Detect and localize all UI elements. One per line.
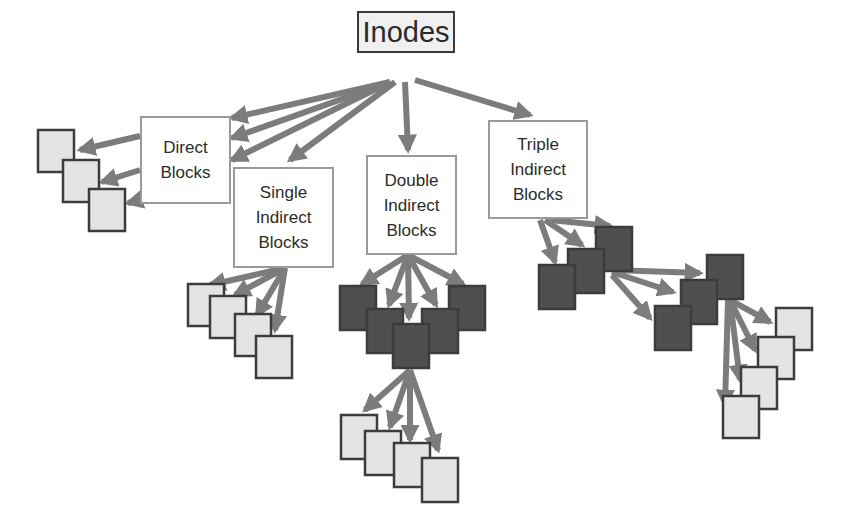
single-line-1: Single (260, 180, 307, 205)
indirect-block (393, 324, 429, 368)
triple-indirect-blocks (539, 227, 743, 350)
single-line-3: Blocks (258, 230, 308, 255)
triple-line-3: Blocks (513, 182, 563, 207)
double-line-1: Double (385, 168, 439, 193)
double-data-blocks (341, 415, 458, 502)
triple-indirect-blocks-box: Triple Indirect Blocks (488, 120, 588, 219)
data-block (89, 189, 125, 231)
triple-line-2: Indirect (510, 157, 566, 182)
triple-line-1: Triple (517, 132, 559, 157)
indirect-block (539, 265, 575, 309)
data-block (422, 458, 458, 502)
double-line-3: Blocks (386, 218, 436, 243)
single-indirect-blocks-box: Single Indirect Blocks (233, 167, 334, 268)
data-block (256, 336, 292, 378)
direct-line-2: Blocks (160, 160, 210, 185)
data-block (723, 396, 759, 438)
inodes-box: Inodes (357, 11, 455, 53)
inode-diagram (0, 0, 848, 529)
single-line-2: Indirect (256, 205, 312, 230)
double-indirect-blocks (340, 286, 485, 368)
single-data-blocks (188, 284, 292, 378)
inodes-label: Inodes (362, 16, 449, 48)
direct-line-1: Direct (163, 135, 207, 160)
double-line-2: Indirect (384, 193, 440, 218)
direct-blocks-box: Direct Blocks (140, 116, 231, 204)
indirect-block (655, 306, 691, 350)
double-indirect-blocks-box: Double Indirect Blocks (366, 155, 457, 255)
